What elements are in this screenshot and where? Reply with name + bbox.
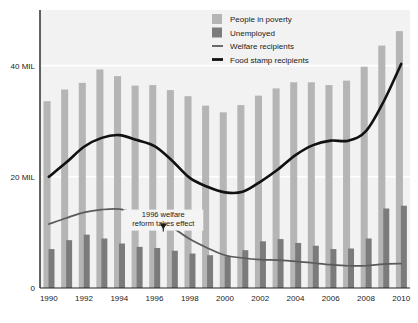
y-tick-label-0: 0 (31, 284, 36, 293)
bar-unemployed-1995 (137, 247, 143, 288)
legend-label-0: People in poverty (230, 15, 292, 24)
bar-unemployed-2000 (225, 256, 231, 288)
bar-unemployed-1998 (189, 254, 195, 288)
x-tick-label-1996: 1996 (146, 294, 164, 303)
legend-label-1: Unemployed (230, 29, 275, 38)
bar-unemployed-1991 (66, 240, 72, 288)
bar-unemployed-2005 (313, 246, 319, 288)
y-tick-label-2: 40 MIL (11, 62, 36, 71)
bar-unemployed-2009 (383, 208, 389, 288)
legend-swatch-0 (212, 14, 222, 24)
legend-label-2: Welfare recipients (230, 42, 294, 51)
bar-unemployed-2004 (295, 243, 301, 288)
bar-unemployed-2007 (348, 249, 354, 288)
bar-unemployed-1990 (49, 249, 55, 288)
bar-unemployed-2002 (260, 241, 266, 288)
x-tick-label-1998: 1998 (181, 294, 199, 303)
bar-unemployed-2006 (330, 249, 336, 288)
y-tick-label-1: 20 MIL (11, 173, 36, 182)
x-tick-label-1990: 1990 (40, 294, 58, 303)
bar-unemployed-1994 (119, 244, 125, 288)
bar-unemployed-1993 (101, 239, 107, 288)
x-tick-label-2004: 2004 (287, 294, 305, 303)
x-tick-label-1994: 1994 (110, 294, 128, 303)
bar-unemployed-2010 (401, 206, 407, 288)
bar-unemployed-2001 (242, 250, 248, 288)
x-tick-label-2008: 2008 (357, 294, 375, 303)
annotation-line-1: 1996 welfare (142, 210, 185, 219)
poverty-welfare-chart: 020 MIL40 MIL 19901992199419961998200020… (0, 0, 418, 323)
bar-unemployed-1996 (154, 248, 160, 288)
x-tick-label-2006: 2006 (322, 294, 340, 303)
bar-unemployed-2008 (366, 239, 372, 288)
bar-unemployed-1992 (84, 235, 90, 288)
x-tick-label-1992: 1992 (75, 294, 93, 303)
x-tick-label-2000: 2000 (216, 294, 234, 303)
bar-unemployed-1997 (172, 251, 178, 288)
legend-label-3: Food stamp recipients (230, 56, 309, 65)
annotation-1996-welfare-reform: 1996 welfare reform takes effect (123, 210, 203, 232)
x-tick-label-2010: 2010 (392, 294, 410, 303)
x-tick-label-2002: 2002 (251, 294, 269, 303)
bar-unemployed-1999 (207, 255, 213, 288)
chart-container: 020 MIL40 MIL 19901992199419961998200020… (0, 0, 418, 323)
bar-unemployed-2003 (278, 239, 284, 288)
legend-swatch-1 (212, 28, 222, 38)
